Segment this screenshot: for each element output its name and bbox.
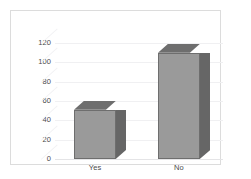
y-tick-80: 80 — [21, 78, 51, 86]
chart-container: 120 100 80 60 40 20 0 — [0, 0, 251, 179]
bar-no[interactable] — [158, 43, 211, 159]
bar-yes-top-face — [74, 101, 116, 110]
y-tick-40: 40 — [21, 116, 51, 124]
y-tick-100: 100 — [21, 58, 51, 66]
bar-yes-front-face — [74, 110, 116, 159]
plot-area — [55, 43, 223, 159]
y-tick-20: 20 — [21, 136, 51, 144]
x-tick-no: No — [157, 163, 201, 173]
y-tick-120: 120 — [21, 39, 51, 47]
x-tick-yes: Yes — [73, 163, 117, 173]
y-axis-tick-labels: 120 100 80 60 40 20 0 — [19, 43, 51, 159]
y-tick-0: 0 — [21, 155, 51, 163]
chart-frame-border: 120 100 80 60 40 20 0 — [10, 10, 221, 165]
bar-yes[interactable] — [74, 43, 127, 159]
bar-no-side-face — [200, 53, 210, 159]
x-axis-category-labels: Yes No — [55, 163, 223, 177]
bar-yes-side-face — [116, 110, 126, 159]
y-tick-60: 60 — [21, 97, 51, 105]
gridline-0-baseline — [55, 159, 223, 160]
bar-no-top-face — [158, 44, 200, 53]
bar-no-front-face — [158, 53, 200, 159]
